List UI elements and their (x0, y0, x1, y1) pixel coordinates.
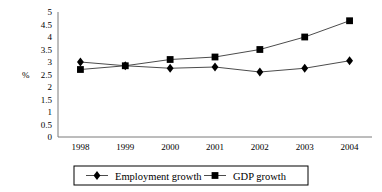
y-axis-tick-labels: 00.511.522.533.544.55 (41, 7, 53, 142)
x-axis-tick-label: 1999 (116, 142, 135, 152)
legend-label: Employment growth (115, 171, 202, 182)
data-point-marker (256, 46, 263, 53)
data-point-marker (167, 56, 174, 63)
chart-axes (58, 12, 372, 137)
y-axis-tick-label: 0 (48, 132, 53, 142)
data-point-marker (301, 64, 308, 73)
data-point-marker (256, 68, 263, 77)
legend-diamond-icon (94, 171, 101, 180)
y-axis-tick-label: 3.5 (41, 45, 53, 55)
x-axis-tick-label: 2004 (341, 142, 360, 152)
x-axis-tick-labels: 1998199920002001200220032004 (71, 142, 359, 152)
legend-label: GDP growth (233, 171, 287, 182)
legend-item-gdp-growth[interactable]: GDP growth (204, 171, 287, 182)
data-point-marker (77, 58, 84, 67)
y-axis-tick-label: 5 (48, 7, 53, 17)
data-point-marker (167, 64, 174, 73)
x-axis-tick-label: 2003 (296, 142, 315, 152)
y-axis-tick-label: 1.5 (41, 95, 53, 105)
y-axis-tick-label: 2.5 (41, 70, 53, 80)
y-axis-tick-label: 4 (48, 32, 53, 42)
y-axis-tick-label: 3 (48, 57, 53, 67)
x-axis-tick-label: 2001 (206, 142, 224, 152)
y-axis-tick-label: 2 (48, 82, 53, 92)
chart-legend: Employment growthGDP growth (74, 166, 308, 185)
y-axis-tick-label: 1 (48, 107, 53, 117)
line-chart: 00.511.522.533.544.55%199819992000200120… (0, 0, 382, 192)
y-axis-title: % (22, 70, 30, 80)
chart-container: 00.511.522.533.544.55%199819992000200120… (0, 0, 382, 192)
x-axis-tick-label: 2002 (251, 142, 269, 152)
data-point-marker (346, 56, 353, 65)
data-point-marker (212, 63, 219, 72)
x-axis-tick-label: 1998 (71, 142, 90, 152)
series-line (80, 21, 349, 70)
data-point-marker (77, 66, 84, 73)
y-axis-tick-label: 4.5 (41, 20, 53, 30)
data-point-marker (301, 34, 308, 41)
legend-item-employment-growth[interactable]: Employment growth (86, 171, 202, 182)
x-axis-tick-label: 2000 (161, 142, 180, 152)
data-point-marker (346, 17, 353, 24)
data-point-marker (122, 62, 129, 69)
legend-square-icon (212, 172, 219, 179)
y-axis-tick-label: 0.5 (41, 120, 53, 130)
data-point-marker (212, 54, 219, 61)
